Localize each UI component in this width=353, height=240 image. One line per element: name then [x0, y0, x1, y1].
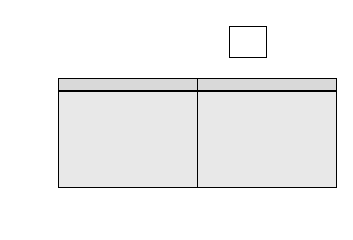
plot-panels: [58, 91, 337, 188]
y-axis-left: [0, 91, 58, 188]
rug-plot-present: [198, 178, 336, 187]
legend-item: [165, 37, 267, 48]
area-bands-present: [198, 92, 336, 187]
legend-swatch-parttime: [229, 37, 267, 48]
legend-swatch-notwork: [229, 47, 267, 58]
rug-plot-absent: [59, 178, 197, 187]
panel-strips: [58, 78, 337, 91]
panel-children-present: [197, 91, 337, 188]
legend-item: [165, 47, 267, 58]
area-bands-absent: [59, 92, 197, 187]
panel-children-absent: [58, 91, 198, 188]
legend-item: [165, 26, 267, 37]
legend-swatch-fulltime: [229, 26, 267, 37]
x-axis-bottom: [58, 188, 337, 204]
panel-strip-present: [197, 78, 337, 91]
legend: [165, 26, 267, 58]
y-axis-right: [337, 91, 345, 188]
x-axis-top: [58, 60, 337, 78]
panel-strip-absent: [58, 78, 198, 91]
